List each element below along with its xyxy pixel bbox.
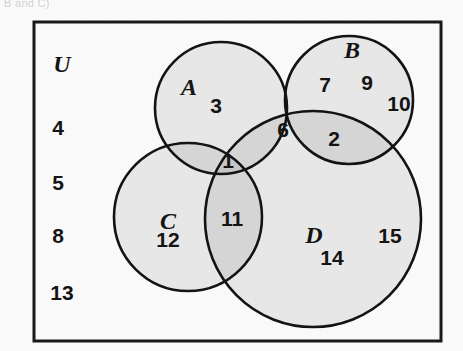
universe-label: U (53, 51, 72, 77)
set-label-d: D (304, 222, 322, 248)
element-1: 1 (222, 149, 234, 172)
element-2: 2 (328, 127, 340, 150)
element-15: 15 (378, 224, 402, 247)
element-14: 14 (320, 246, 344, 269)
element-13: 13 (50, 281, 73, 304)
venn-diagram-figure: B and C) U A B C D (0, 0, 463, 351)
element-3: 3 (210, 94, 222, 117)
element-4: 4 (52, 116, 64, 139)
element-10: 10 (387, 92, 410, 115)
venn-diagram-canvas: U A B C D 3 7 9 10 6 2 1 11 12 14 15 4 5… (0, 0, 463, 351)
element-11: 11 (221, 207, 244, 230)
set-label-b: B (343, 37, 360, 63)
element-5: 5 (52, 171, 64, 194)
set-label-a: A (179, 74, 197, 100)
element-7: 7 (319, 73, 331, 96)
element-8: 8 (52, 224, 64, 247)
element-12: 12 (156, 228, 179, 251)
element-6: 6 (277, 118, 289, 141)
element-9: 9 (361, 71, 373, 94)
